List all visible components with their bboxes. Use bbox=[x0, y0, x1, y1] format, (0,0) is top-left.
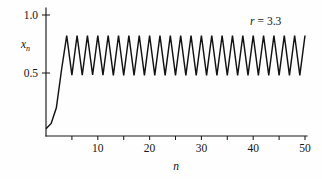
logistic-map-plot: 0.51.0 1020304050 xn n r=3.3 bbox=[0, 0, 322, 179]
parameter-annotation: r=3.3 bbox=[250, 15, 282, 27]
x-tick-label-10: 10 bbox=[92, 142, 104, 154]
series-line-xn bbox=[46, 36, 305, 129]
y-tick-label-0.5: 0.5 bbox=[24, 67, 39, 79]
x-tick-marks bbox=[72, 136, 305, 140]
x-tick-label-50: 50 bbox=[299, 142, 311, 154]
x-axis-title: n bbox=[173, 160, 179, 172]
data-group bbox=[46, 36, 305, 129]
y-axis-title: xn bbox=[20, 38, 30, 53]
x-tick-labels: 1020304050 bbox=[92, 142, 311, 154]
y-tick-label-1.0: 1.0 bbox=[24, 9, 39, 21]
x-tick-label-20: 20 bbox=[144, 142, 156, 154]
figure-container: 0.51.0 1020304050 xn n r=3.3 bbox=[0, 0, 322, 179]
x-tick-label-40: 40 bbox=[247, 142, 259, 154]
x-tick-label-30: 30 bbox=[196, 142, 208, 154]
